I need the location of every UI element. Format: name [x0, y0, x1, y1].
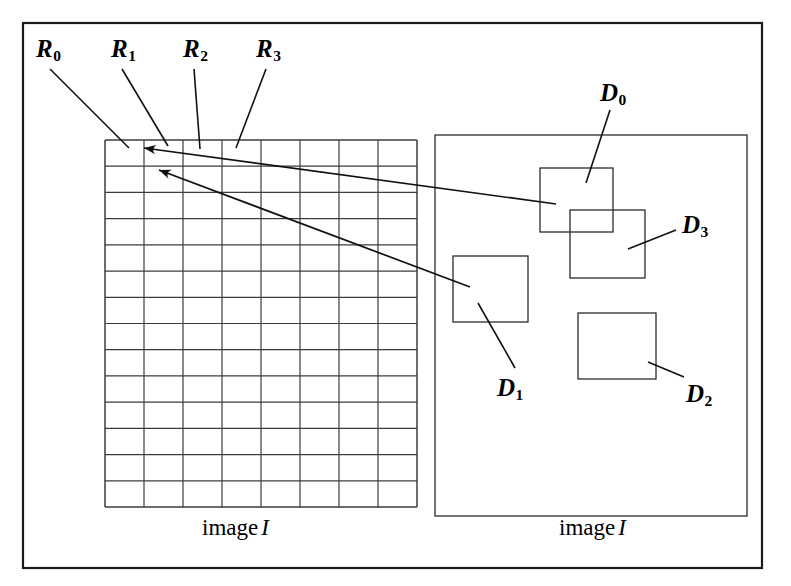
detection-label-D2-sub: 2	[705, 392, 713, 409]
outer-border	[23, 23, 762, 568]
leader-line-R2-leader	[194, 69, 200, 149]
region-label-R2: R2	[183, 36, 208, 64]
detection-label-D1-base: D	[497, 374, 515, 401]
region-label-R3: R3	[256, 36, 281, 64]
region-label-R3-sub: 3	[273, 47, 281, 64]
region-label-R1: R1	[111, 36, 136, 64]
region-label-R2-sub: 2	[200, 47, 208, 64]
region-label-R1-sub: 1	[128, 47, 136, 64]
detection-label-D2: D2	[686, 381, 712, 409]
region-label-R3-base: R	[256, 35, 273, 62]
detection-label-D3: D3	[682, 212, 708, 240]
arrow-D0-to-R1	[144, 148, 556, 204]
leader-line-R3-leader	[236, 69, 266, 148]
right-image-frame	[435, 135, 747, 516]
leader-line-R0-leader	[50, 69, 129, 148]
leader-line-D1	[478, 303, 515, 368]
detection-label-D0: D0	[600, 80, 626, 108]
leader-line-R1-leader	[122, 69, 168, 146]
detection-label-D0-sub: 0	[619, 91, 627, 108]
region-label-R0-base: R	[36, 35, 53, 62]
figure-canvas	[0, 0, 791, 586]
correspondence-arrows-group	[144, 148, 556, 287]
detection-label-D3-sub: 3	[701, 223, 709, 240]
left-image-grid	[105, 140, 417, 507]
detection-box-D1	[453, 256, 528, 322]
leader-lines-group	[50, 69, 684, 377]
right-image-caption-symbol: I	[615, 515, 626, 540]
detection-box-D3	[570, 210, 645, 278]
left-image-caption-text: image	[202, 515, 258, 540]
region-label-R1-base: R	[111, 35, 128, 62]
detection-box-D2	[578, 313, 656, 379]
region-label-R0: R0	[36, 36, 61, 64]
region-label-R2-base: R	[183, 35, 200, 62]
detection-box-D0	[540, 168, 613, 232]
right-image-caption: imageI	[559, 516, 626, 539]
left-image-caption-symbol: I	[258, 515, 269, 540]
detection-label-D1: D1	[497, 375, 523, 403]
detection-label-D3-base: D	[682, 211, 700, 238]
detection-label-D2-base: D	[686, 380, 704, 407]
detection-label-D0-base: D	[600, 79, 618, 106]
right-image-caption-text: image	[559, 515, 615, 540]
leader-line-D0	[586, 110, 610, 183]
left-image-caption: imageI	[202, 516, 269, 539]
arrow-D1-to-R1-lower	[159, 170, 470, 287]
detection-boxes-group	[453, 168, 656, 379]
figure-root: R0 R1 R2 R3 D0 D3 D1 D2 imageI imageI	[0, 0, 791, 586]
detection-label-D1-sub: 1	[516, 386, 524, 403]
leader-line-D2	[648, 362, 684, 377]
leader-line-D3	[628, 230, 676, 249]
region-label-R0-sub: 0	[53, 47, 61, 64]
